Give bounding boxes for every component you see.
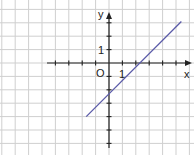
y-axis-label: y xyxy=(98,8,104,20)
x-arrow-icon xyxy=(185,60,192,66)
origin-label: O xyxy=(96,67,105,79)
coordinate-plane: y x O 1 1 xyxy=(0,0,194,155)
y-axis xyxy=(106,12,112,148)
x-tick-label-1: 1 xyxy=(119,68,125,80)
x-axis-label: x xyxy=(184,68,190,80)
axis-ticks xyxy=(55,23,176,144)
y-arrow-icon xyxy=(106,12,112,19)
y-tick-label-1: 1 xyxy=(98,44,104,56)
